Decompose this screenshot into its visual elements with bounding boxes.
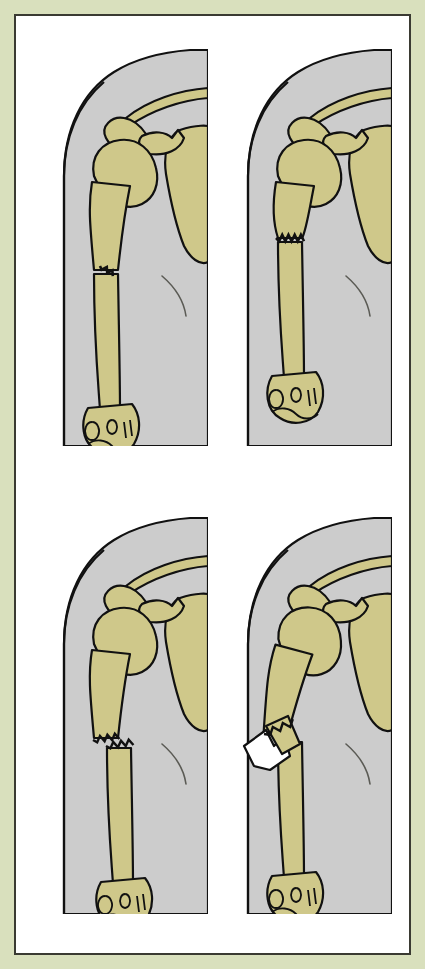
humeral-shaft-distal (107, 748, 133, 884)
fracture-panel-3 (30, 494, 208, 914)
panel-grid (16, 16, 409, 953)
humeral-shaft-distal (94, 274, 120, 410)
figure-root (0, 0, 425, 969)
panel-illustration-displaced (30, 494, 208, 914)
panel-illustration-transverse (214, 26, 392, 446)
panel-illustration-open-compound (214, 494, 392, 914)
fracture-panel-1 (30, 26, 208, 446)
humeral-shaft-distal (278, 242, 304, 378)
figure-frame (14, 14, 411, 955)
fracture-panel-4 (214, 494, 392, 914)
panel-illustration-hairline (30, 26, 208, 446)
fracture-panel-2 (214, 26, 392, 446)
